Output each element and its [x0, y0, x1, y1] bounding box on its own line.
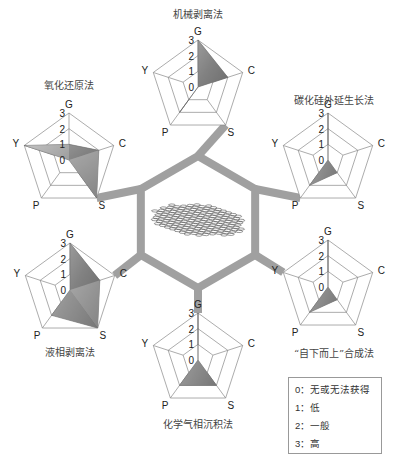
axis-label-C: C [120, 268, 127, 279]
axis-label-Y: Y [141, 65, 148, 76]
tick-label-2: 2 [59, 124, 65, 135]
axis-label-P: P [33, 200, 40, 211]
axis-label-Y: Y [12, 138, 19, 149]
tick-label-1: 1 [188, 66, 194, 77]
chart-title-mechanical: 机械剥离法 [173, 8, 223, 20]
axis-label-C: C [378, 138, 385, 149]
graphene-lattice-icon [151, 204, 245, 237]
axis-label-S: S [228, 127, 235, 138]
legend-item-0: 0：无或无法获得 [295, 381, 375, 399]
chart-title-sic-epitaxy: 碳化硅外延生长法 [294, 94, 374, 106]
connector-liquid-phase [115, 255, 141, 275]
axis-label-S: S [99, 200, 106, 211]
chart-title-bottom-up: “自下而上”合成法 [294, 347, 374, 359]
legend: 0：无或无法获得 1：低 2：一般 3：高 [288, 377, 382, 454]
chart-title-redox: 氧化还原法 [44, 79, 94, 91]
tick-label-0: 0 [60, 285, 66, 296]
tick-label-2: 2 [188, 324, 194, 335]
axis-label-S: S [358, 327, 365, 338]
tick-label-1: 1 [188, 339, 194, 350]
radar-chart-mechanical: 0123GCSPY机械剥离法 [141, 8, 254, 138]
chart-title-liquid-phase: 液相剥离法 [45, 346, 95, 358]
axis-label-S: S [358, 200, 365, 211]
connector-sic-epitaxy [255, 189, 300, 198]
tick-label-1: 1 [60, 269, 66, 280]
axis-label-P: P [162, 400, 169, 411]
tick-label-2: 2 [318, 251, 324, 262]
axis-label-G: G [65, 99, 73, 110]
tick-label-0: 0 [188, 355, 194, 366]
axis-label-G: G [194, 26, 202, 37]
axis-label-Y: Y [141, 338, 148, 349]
axis-label-C: C [119, 138, 126, 149]
tick-label-2: 2 [60, 254, 66, 265]
tick-label-1: 1 [59, 139, 65, 150]
legend-item-1: 1：低 [295, 399, 375, 417]
axis-label-P: P [34, 330, 41, 341]
axis-label-S: S [228, 400, 235, 411]
axis-label-S: S [100, 330, 107, 341]
legend-item-2: 2：一般 [295, 417, 375, 435]
tick-label-0: 0 [188, 82, 194, 93]
axis-label-P: P [162, 127, 169, 138]
legend-item-3: 3：高 [295, 435, 375, 453]
axis-label-C: C [248, 65, 255, 76]
axis-label-Y: Y [271, 265, 278, 276]
connector-mechanical [198, 125, 226, 156]
tick-label-0: 0 [59, 155, 65, 166]
axis-label-C: C [248, 338, 255, 349]
axis-label-Y: Y [271, 138, 278, 149]
tick-label-0: 0 [318, 282, 324, 293]
tick-label-2: 2 [318, 124, 324, 135]
axis-label-C: C [378, 265, 385, 276]
tick-label-1: 1 [318, 139, 324, 150]
axis-label-G: G [194, 299, 202, 310]
axis-label-Y: Y [13, 268, 20, 279]
axis-label-G: G [324, 226, 332, 237]
radar-chart-bottom-up: 0123GCSPY“自下而上”合成法 [271, 226, 384, 359]
tick-label-0: 0 [318, 155, 324, 166]
chart-title-cvd: 化学气相沉积法 [163, 418, 233, 430]
tick-label-1: 1 [318, 266, 324, 277]
connector-redox [97, 189, 141, 198]
axis-label-P: P [292, 327, 299, 338]
connector-bottom-up [255, 255, 283, 272]
axis-label-G: G [66, 229, 74, 240]
tick-label-2: 2 [188, 51, 194, 62]
radar-chart-cvd: 0123GCSPY化学气相沉积法 [141, 299, 254, 430]
radar-chart-liquid-phase: 0123GCSPY液相剥离法 [13, 229, 126, 358]
axis-label-P: P [292, 200, 299, 211]
